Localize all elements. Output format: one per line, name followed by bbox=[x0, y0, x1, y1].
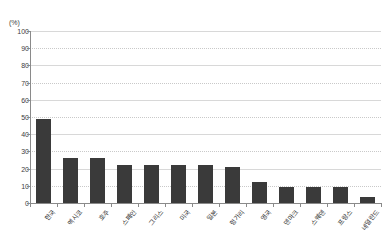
x-tick-label: 멕시코 bbox=[64, 207, 83, 227]
y-tick-label-60: 60 bbox=[0, 96, 29, 103]
y-axis-unit-label: (%) bbox=[9, 19, 20, 26]
y-tick-label-90: 90 bbox=[0, 45, 29, 52]
bar bbox=[279, 187, 293, 203]
bar bbox=[198, 165, 212, 203]
y-tick-label-100: 100 bbox=[0, 28, 29, 35]
x-tick-label: 일본 bbox=[203, 207, 218, 223]
x-tick-label: 스페인 bbox=[118, 207, 137, 227]
y-tick-label-20: 20 bbox=[0, 165, 29, 172]
bar bbox=[63, 158, 77, 203]
chart-title bbox=[8, 0, 218, 9]
bar-series bbox=[30, 31, 381, 203]
x-tick-label: 영국 bbox=[257, 207, 272, 223]
bar bbox=[306, 187, 320, 203]
x-tick-label: 덴마크 bbox=[280, 207, 299, 227]
x-tick-mark bbox=[381, 203, 382, 207]
y-tick-label-30: 30 bbox=[0, 148, 29, 155]
x-tick-label: 미국 bbox=[176, 207, 191, 223]
bar-chart: (%) 0102030405060708090100 한국멕시코호주스페인그리스… bbox=[0, 0, 390, 246]
x-tick-label: 헝가리 bbox=[226, 207, 245, 227]
x-tick-label: 그리스 bbox=[145, 207, 164, 227]
x-tick-label: 프랑스 bbox=[334, 207, 353, 227]
y-tick-label-70: 70 bbox=[0, 79, 29, 86]
bar bbox=[225, 167, 239, 203]
x-tick-label: 네덜란드 bbox=[358, 207, 381, 232]
x-tick-label: 한국 bbox=[41, 207, 56, 223]
bar bbox=[144, 165, 158, 203]
y-tick-label-80: 80 bbox=[0, 62, 29, 69]
x-axis-labels: 한국멕시코호주스페인그리스미국일본헝가리영국덴마크스웨덴프랑스네덜란드 bbox=[30, 203, 381, 246]
y-tick-label-0: 0 bbox=[0, 200, 29, 207]
x-tick-label: 스웨덴 bbox=[307, 207, 326, 227]
bar bbox=[171, 165, 185, 203]
bar bbox=[36, 119, 50, 203]
bar bbox=[333, 187, 347, 203]
bar bbox=[90, 158, 104, 203]
x-tick-label: 호주 bbox=[95, 207, 110, 223]
bar bbox=[117, 165, 131, 203]
bar bbox=[252, 182, 266, 203]
y-tick-label-40: 40 bbox=[0, 131, 29, 138]
y-tick-label-50: 50 bbox=[0, 114, 29, 121]
y-tick-label-10: 10 bbox=[0, 182, 29, 189]
